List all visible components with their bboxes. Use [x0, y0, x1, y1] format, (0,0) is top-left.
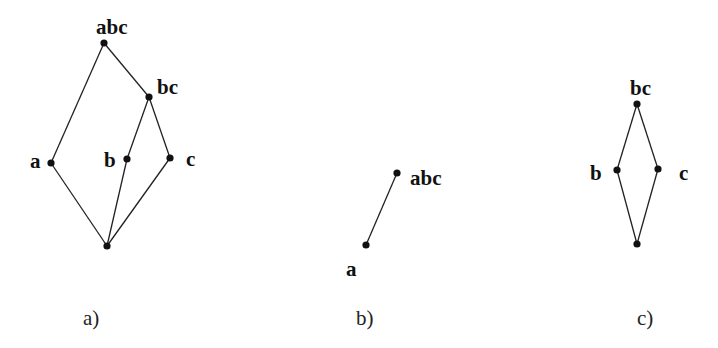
node-label-bc: bc	[157, 75, 178, 99]
edge-bc-c	[637, 104, 658, 169]
node-label-a: a	[346, 257, 357, 281]
node-a	[362, 241, 369, 248]
node-label-c: c	[186, 147, 195, 171]
edge-bc-b	[617, 104, 637, 170]
edge-b-bottom	[617, 170, 637, 244]
node-b	[613, 166, 620, 173]
node-label-abc: abc	[96, 15, 128, 39]
lattice-diagrams-svg: abcbcabca)abcab)bcbcc)	[0, 0, 718, 348]
node-bc	[145, 93, 152, 100]
edge-bc-b	[127, 97, 149, 159]
caption-a: a)	[83, 306, 99, 330]
node-a	[47, 159, 54, 166]
edge-abc-bc	[104, 43, 149, 97]
node-c	[166, 154, 173, 161]
node-label-abc: abc	[410, 166, 442, 190]
edge-bc-c	[149, 97, 170, 158]
diagram-b: abcab)	[346, 166, 442, 330]
node-bc	[633, 100, 640, 107]
node-label-b: b	[590, 161, 602, 185]
diagram-c: bcbcc)	[590, 76, 688, 330]
caption-c: c)	[637, 306, 653, 330]
node-b	[123, 155, 130, 162]
edge-abc-a	[51, 43, 104, 163]
node-bottom	[103, 242, 110, 249]
node-label-b: b	[104, 148, 116, 172]
caption-b: b)	[356, 306, 374, 330]
node-abc	[100, 39, 107, 46]
diagram-a: abcbcabca)	[30, 15, 195, 330]
node-label-bc: bc	[630, 76, 651, 100]
edge-abc-a	[366, 173, 397, 245]
node-abc	[393, 169, 400, 176]
node-label-a: a	[30, 149, 41, 173]
lattice-figure: abcbcabca)abcab)bcbcc)	[0, 0, 718, 348]
edge-c-bottom	[637, 169, 658, 244]
node-c	[654, 165, 661, 172]
node-bottom	[633, 240, 640, 247]
node-label-c: c	[679, 161, 688, 185]
edge-a-bottom	[51, 163, 107, 246]
